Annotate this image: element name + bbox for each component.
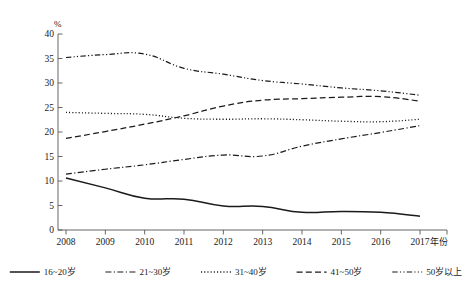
x-axis-tick-label: 2010 bbox=[135, 237, 154, 247]
x-axis-tick-label: 2009 bbox=[96, 237, 115, 247]
y-axis-tick-label: 5 bbox=[49, 201, 54, 211]
y-axis-tick-label: 15 bbox=[45, 152, 55, 162]
x-axis-tick-label: 2011 bbox=[175, 237, 194, 247]
legend-label-5: 50岁以上 bbox=[426, 266, 462, 277]
x-axis-tick-label: 2008 bbox=[57, 237, 76, 247]
x-axis-tick-label: 2013 bbox=[253, 237, 272, 247]
x-axis-tick-label: 2014 bbox=[293, 237, 312, 247]
y-axis-tick-label: 30 bbox=[45, 78, 55, 88]
y-axis-tick-label: 10 bbox=[45, 176, 55, 186]
x-axis-tick-label: 2016 bbox=[371, 237, 390, 247]
series-line-1 bbox=[66, 178, 420, 216]
series-line-4 bbox=[66, 96, 420, 138]
legend-label-1: 16~20岁 bbox=[44, 266, 76, 277]
legend-label-3: 31~40岁 bbox=[235, 266, 267, 277]
y-axis-unit-label: % bbox=[54, 19, 62, 29]
x-axis-tick-label: 2015 bbox=[332, 237, 351, 247]
x-axis-name-label: 年份 bbox=[430, 236, 448, 247]
y-axis-tick-label: 20 bbox=[45, 127, 55, 137]
y-axis-tick-label: 35 bbox=[45, 54, 55, 64]
y-axis-tick-label: 25 bbox=[45, 103, 55, 113]
x-axis-tick-label: 2012 bbox=[214, 237, 233, 247]
series-line-5 bbox=[66, 53, 420, 96]
x-axis-tick-label: 2017 bbox=[411, 237, 430, 247]
y-axis-tick-label: 40 bbox=[45, 29, 55, 39]
legend-label-4: 41~50岁 bbox=[331, 266, 363, 277]
line-chart: 0510152025303540%20082009201020112012201… bbox=[0, 0, 462, 289]
legend-label-2: 21~30岁 bbox=[139, 266, 171, 277]
series-line-3 bbox=[66, 112, 420, 121]
series-line-2 bbox=[66, 126, 420, 175]
chart-figure: 0510152025303540%20082009201020112012201… bbox=[0, 0, 462, 289]
y-axis-tick-label: 0 bbox=[49, 225, 54, 235]
